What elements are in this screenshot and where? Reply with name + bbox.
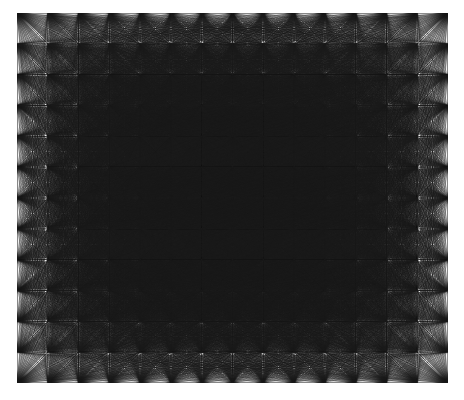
lattice-line-figure-canvas [0, 0, 464, 400]
figure-container [0, 0, 464, 400]
